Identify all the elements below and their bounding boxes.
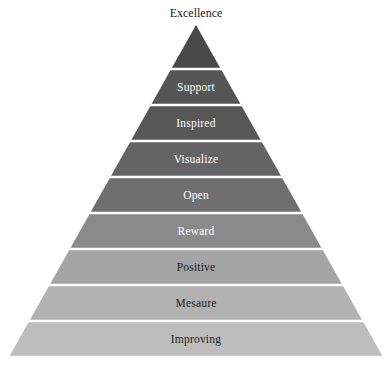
level-label: Reward	[178, 225, 215, 237]
level-label: Positive	[177, 261, 216, 273]
pyramid-apex	[172, 25, 220, 68]
pyramid-level-open: Open	[91, 178, 301, 212]
pyramid-level-mesaure: Mesaure	[30, 286, 362, 320]
pyramid-canvas: Excellence SupportInspiredVisualizeOpenR…	[0, 0, 390, 367]
apex-title: Excellence	[170, 6, 223, 20]
pyramid-level-positive: Positive	[50, 250, 341, 284]
level-label: Support	[177, 81, 215, 94]
level-label: Inspired	[176, 117, 215, 130]
level-label: Open	[183, 189, 209, 202]
level-label: Visualize	[174, 153, 219, 165]
pyramid-level-visualize: Visualize	[111, 142, 281, 176]
pyramid-level-reward: Reward	[71, 214, 322, 248]
level-label: Mesaure	[176, 297, 217, 309]
pyramid-level-improving: Improving	[10, 322, 383, 356]
pyramid-level-inspired: Inspired	[131, 106, 260, 140]
pyramid-levels: SupportInspiredVisualizeOpenRewardPositi…	[10, 25, 383, 356]
pyramid-level-support: Support	[152, 70, 241, 104]
level-label: Improving	[171, 333, 221, 346]
